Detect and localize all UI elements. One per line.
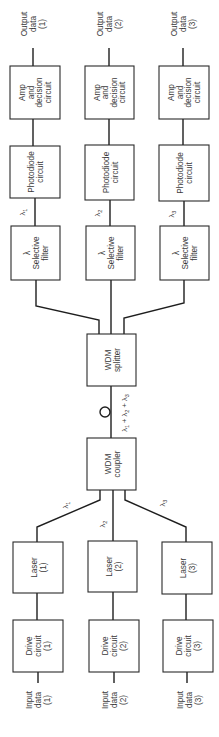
svg-text:λ3: λ3 bbox=[167, 211, 177, 218]
svg-text:WDM: WDM bbox=[104, 350, 113, 371]
svg-text:circuit: circuit bbox=[118, 81, 127, 103]
input-label-1: Input data (1) bbox=[25, 690, 52, 709]
svg-text:(3): (3) bbox=[188, 19, 197, 29]
svg-text:(2): (2) bbox=[119, 641, 128, 651]
tx-lambda-label-1: λ1 bbox=[61, 502, 71, 509]
rx-lambda-label-2: λ2 bbox=[93, 210, 103, 217]
svg-text:λ2: λ2 bbox=[98, 521, 108, 528]
svg-text:Input: Input bbox=[25, 690, 34, 709]
svg-text:(1): (1) bbox=[43, 695, 52, 705]
svg-text:(3): (3) bbox=[193, 641, 202, 651]
svg-text:filter: filter bbox=[190, 245, 199, 261]
tx-lambda-label-3: λ3 bbox=[158, 500, 168, 507]
output-label-2: Output data (2) bbox=[96, 11, 123, 36]
input-label-2: Input data (2) bbox=[101, 690, 128, 709]
svg-text:coupler: coupler bbox=[113, 450, 122, 477]
svg-text:circuit: circuit bbox=[44, 81, 53, 103]
svg-text:(2): (2) bbox=[119, 695, 128, 705]
svg-text:Selective: Selective bbox=[32, 236, 41, 270]
svg-text:circuit: circuit bbox=[36, 161, 45, 183]
svg-text:data: data bbox=[29, 16, 38, 32]
svg-text:λ1: λ1 bbox=[61, 502, 71, 509]
svg-text:Output: Output bbox=[170, 11, 179, 36]
tx-lambda-label-2: λ2 bbox=[98, 521, 108, 528]
svg-text:filter: filter bbox=[116, 245, 125, 261]
svg-text:circuit: circuit bbox=[111, 161, 120, 183]
svg-text:Drive: Drive bbox=[175, 636, 184, 656]
rx-lambda-label-1: λ1 bbox=[18, 209, 28, 216]
svg-text:filter: filter bbox=[41, 245, 50, 261]
svg-text:Photodiode: Photodiode bbox=[27, 151, 36, 193]
svg-text:circuit: circuit bbox=[185, 162, 194, 184]
svg-text:(1): (1) bbox=[38, 19, 47, 29]
svg-text:Photodiode: Photodiode bbox=[102, 151, 111, 193]
svg-text:data: data bbox=[105, 16, 114, 32]
svg-text:(2): (2) bbox=[114, 19, 123, 29]
svg-text:Input: Input bbox=[101, 690, 110, 709]
svg-text:λ1 + λ2 + λ3: λ1 + λ2 + λ3 bbox=[120, 394, 130, 432]
svg-text:data: data bbox=[110, 692, 119, 708]
svg-text:Output: Output bbox=[20, 11, 29, 36]
fiber-loop-icon bbox=[100, 407, 110, 417]
svg-text:circuit: circuit bbox=[34, 635, 43, 657]
wdm-splitter-label: WDM splitter bbox=[104, 348, 122, 372]
filter-splitter-link-1 bbox=[36, 280, 99, 334]
svg-text:Input: Input bbox=[176, 690, 185, 709]
svg-text:WDM: WDM bbox=[104, 454, 113, 475]
svg-text:circuit: circuit bbox=[110, 635, 119, 657]
svg-text:Laser: Laser bbox=[179, 557, 188, 578]
svg-text:λ1: λ1 bbox=[18, 209, 28, 216]
svg-text:(3): (3) bbox=[188, 563, 197, 573]
output-label-3: Output data (3) bbox=[170, 11, 197, 36]
svg-text:(3): (3) bbox=[194, 695, 203, 705]
svg-text:data: data bbox=[179, 16, 188, 32]
svg-text:Output: Output bbox=[96, 11, 105, 36]
svg-text:(1): (1) bbox=[43, 641, 52, 651]
svg-text:Laser: Laser bbox=[105, 556, 114, 577]
svg-text:Photodiode: Photodiode bbox=[176, 152, 185, 194]
coupler-laser-link-3 bbox=[125, 490, 186, 542]
svg-text:(2): (2) bbox=[114, 561, 123, 571]
svg-text:Drive: Drive bbox=[25, 636, 34, 656]
coupler-laser-link-1 bbox=[37, 490, 100, 542]
svg-text:data: data bbox=[34, 692, 43, 708]
filter-splitter-link-3 bbox=[124, 280, 184, 334]
svg-text:Drive: Drive bbox=[101, 636, 110, 656]
svg-text:circuit: circuit bbox=[184, 635, 193, 657]
wdm-coupler-label: WDM coupler bbox=[104, 450, 122, 477]
svg-text:splitter: splitter bbox=[113, 348, 122, 372]
svg-text:data: data bbox=[185, 692, 194, 708]
svg-text:circuit: circuit bbox=[193, 81, 202, 103]
svg-text:λ2: λ2 bbox=[93, 210, 103, 217]
input-label-3: Input data (3) bbox=[176, 690, 203, 709]
output-label-1: Output data (1) bbox=[20, 11, 47, 36]
svg-text:Selective: Selective bbox=[181, 236, 190, 270]
wdm-system-diagram: Output data (1) Output data (2) Output d… bbox=[0, 0, 219, 737]
svg-text:Laser: Laser bbox=[30, 557, 39, 578]
svg-text:Selective: Selective bbox=[107, 236, 116, 270]
svg-text:(1): (1) bbox=[39, 562, 48, 572]
rx-lambda-label-3: λ3 bbox=[167, 211, 177, 218]
svg-text:λ3: λ3 bbox=[158, 500, 168, 507]
fiber-wavelengths-label: λ1 + λ2 + λ3 bbox=[120, 394, 130, 432]
